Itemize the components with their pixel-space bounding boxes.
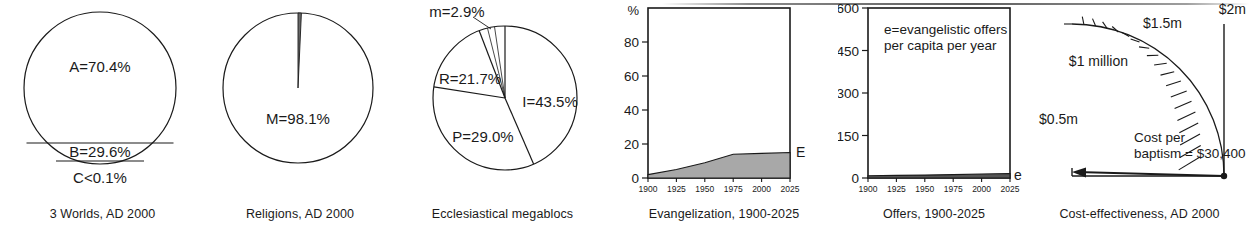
y-tick-label-20: 20: [624, 137, 639, 152]
y-tick-label-600: 600: [838, 1, 859, 16]
y-tick-label-150: 150: [838, 129, 859, 144]
x-tick-label-1925: 1925: [887, 184, 906, 194]
offers-area-chart: 0 150 300 450 600 1900 1925 1950 1975 20…: [838, 0, 1030, 200]
gauge-annotation-line-2: baptism = $30,400: [1134, 146, 1245, 161]
panel-caption-three-worlds: 3 Worlds, AD 2000: [0, 207, 205, 221]
y-axis-ticks: [642, 42, 648, 178]
annotation-line-1: e=evangelistic offers: [884, 22, 1007, 37]
y-tick-label-60: 60: [624, 69, 639, 84]
y-tick-label-300: 300: [838, 86, 859, 101]
x-tick-label-2000: 2000: [752, 184, 771, 194]
x-tick-label-1950: 1950: [695, 184, 714, 194]
cost-effectiveness-gauge: $0.5m $1 million $1.5m $2m Cost per bapt…: [1030, 0, 1249, 200]
pie-divider-p-r: [434, 87, 505, 98]
x-tick-label-1900: 1900: [639, 184, 658, 194]
panel-evangelization: 0 20 40 60 80 % 1900 1925 1950 1975 2000…: [610, 0, 838, 227]
x-tick-label-2025: 2025: [781, 184, 800, 194]
x-tick-label-2025: 2025: [1001, 184, 1020, 194]
panel-caption-megablocs: Ecclesiastical megablocs: [395, 207, 610, 221]
plot-frame: [648, 8, 790, 178]
series-marker-e: e: [1014, 167, 1022, 183]
x-tick-label-1900: 1900: [859, 184, 878, 194]
pie-outline: [24, 12, 176, 164]
panel-cost-effectiveness: $0.5m $1 million $1.5m $2m Cost per bapt…: [1030, 0, 1249, 227]
gauge-label-two-million: $2m: [1219, 1, 1246, 17]
x-tick-label-1925: 1925: [667, 184, 686, 194]
x-tick-label-1975: 1975: [724, 184, 743, 194]
segment-label-p: P=29.0%: [452, 128, 513, 145]
gauge-label-one-million: $1 million: [1069, 53, 1128, 69]
segment-label-m: m=2.9%: [429, 3, 484, 20]
figure-strip: A=70.4% B=29.6% C<0.1% 3 Worlds, AD 2000…: [0, 0, 1249, 227]
annotation-line-2: per capita per year: [884, 38, 997, 53]
y-axis-ticks: [862, 8, 868, 178]
y-tick-label-40: 40: [624, 103, 639, 118]
segment-label-a: A=70.4%: [69, 58, 130, 75]
evangelization-area-chart: 0 20 40 60 80 % 1900 1925 1950 1975 2000…: [610, 0, 838, 200]
three-worlds-pie: A=70.4% B=29.6% C<0.1%: [0, 0, 205, 200]
x-tick-label-1950: 1950: [915, 184, 934, 194]
panel-religions: M=98.1% Religions, AD 2000: [205, 0, 395, 227]
segment-label-b: B=29.6%: [69, 143, 130, 160]
panel-offers: 0 150 300 450 600 1900 1925 1950 1975 20…: [838, 0, 1030, 227]
segment-label-m: M=98.1%: [266, 110, 330, 127]
segment-label-i: I=43.5%: [522, 93, 577, 110]
religions-pie: M=98.1%: [205, 0, 395, 200]
gauge-label-half-million: $0.5m: [1039, 111, 1078, 127]
panel-three-worlds: A=70.4% B=29.6% C<0.1% 3 Worlds, AD 2000: [0, 0, 205, 227]
series-marker-E: E: [796, 144, 805, 160]
segment-label-c: C<0.1%: [73, 169, 127, 186]
y-tick-label-80: 80: [624, 35, 639, 50]
gauge-label-one-and-half-million: $1.5m: [1143, 15, 1182, 31]
pie-divider-r-m: [479, 31, 505, 98]
megablocs-pie: m=2.9% R=21.7% P=29.0% I=43.5%: [395, 0, 610, 200]
x-tick-label-2000: 2000: [972, 184, 991, 194]
panel-caption-evangelization: Evangelization, 1900-2025: [610, 207, 838, 221]
gauge-pivot: [1221, 173, 1227, 179]
panel-caption-cost-effectiveness: Cost-effectiveness, AD 2000: [1030, 207, 1249, 221]
y-tick-label-450: 450: [838, 44, 859, 59]
gauge-annotation-line-1: Cost per: [1134, 130, 1186, 145]
panel-megablocs: m=2.9% R=21.7% P=29.0% I=43.5% Ecclesias…: [395, 0, 610, 227]
panel-caption-offers: Offers, 1900-2025: [838, 207, 1030, 221]
x-tick-label-1975: 1975: [944, 184, 963, 194]
panel-caption-religions: Religions, AD 2000: [205, 207, 395, 221]
pie-slice-other: [298, 13, 301, 88]
segment-label-r: R=21.7%: [439, 70, 501, 87]
y-axis-unit-label: %: [627, 3, 639, 18]
